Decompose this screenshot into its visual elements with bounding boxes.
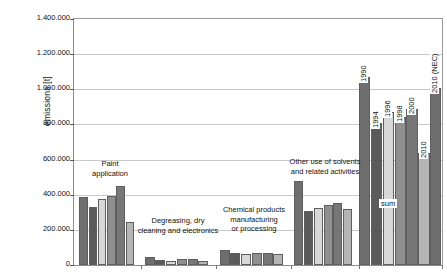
series-year-label: 1996 — [383, 99, 392, 118]
y-tick-label: 600.000 — [14, 154, 70, 163]
bar — [273, 254, 283, 265]
y-tick-mark — [70, 160, 74, 161]
emissions-bar-chart: emissions [t] 0200.000400.000600.000800.… — [0, 0, 447, 279]
bar — [166, 261, 176, 265]
y-tick-mark — [70, 89, 74, 90]
series-year-label: 1998 — [395, 105, 404, 124]
bar — [304, 211, 313, 265]
bar — [371, 123, 382, 265]
bar — [107, 196, 116, 265]
y-tick-mark — [70, 124, 74, 125]
bar — [383, 112, 394, 265]
category-label: Paint application — [79, 159, 141, 178]
bar — [294, 181, 303, 265]
category-label: Degreasing, dry cleaning and electronics — [132, 216, 224, 235]
x-tick-mark — [442, 265, 443, 269]
bar — [406, 109, 417, 265]
category-label: Other use of solvents and related activi… — [282, 157, 368, 176]
y-tick-mark — [70, 230, 74, 231]
sum-label: sum — [379, 199, 397, 208]
plot-area: Paint applicationDegreasing, dry cleanin… — [73, 18, 443, 266]
bar — [155, 260, 165, 265]
y-tick-mark — [70, 195, 74, 196]
y-tick-mark — [70, 265, 74, 266]
series-year-label: 2010 (NEC) — [430, 52, 439, 94]
series-year-label: 1990 — [359, 64, 368, 83]
bar — [79, 197, 88, 265]
series-year-label: 2000 — [407, 96, 416, 115]
y-tick-label: 1.400.000 — [14, 13, 70, 22]
bar — [395, 117, 406, 265]
category-label: Chemical products manufacturing or proce… — [214, 205, 294, 234]
y-tick-label: 200.000 — [14, 224, 70, 233]
gridline — [74, 54, 442, 55]
x-tick-mark — [359, 265, 360, 269]
bar — [198, 261, 208, 265]
y-tick-label: 400.000 — [14, 189, 70, 198]
bar — [314, 208, 323, 265]
bar — [343, 209, 352, 265]
bar — [230, 253, 240, 265]
bar — [188, 259, 198, 265]
bar — [333, 203, 342, 265]
y-tick-label: 1.000.000 — [14, 83, 70, 92]
y-tick-mark — [70, 54, 74, 55]
bar — [89, 207, 98, 265]
bar — [430, 88, 441, 265]
bar — [116, 186, 125, 265]
x-tick-mark — [216, 265, 217, 269]
bar — [177, 259, 187, 265]
x-tick-mark — [141, 265, 142, 269]
y-tick-label: 1.200.000 — [14, 48, 70, 57]
series-year-label: 1994 — [371, 110, 380, 129]
x-tick-mark — [291, 265, 292, 269]
bar — [241, 254, 251, 265]
bar — [263, 253, 273, 265]
bar — [418, 153, 429, 265]
y-tick-label: 800.000 — [14, 118, 70, 127]
bar — [220, 250, 230, 265]
bar — [252, 253, 262, 265]
gridline — [74, 89, 442, 90]
bar — [98, 199, 107, 265]
y-axis-tick-labels: 0200.000400.000600.000800.0001.000.0001.… — [8, 0, 70, 279]
bar — [324, 205, 333, 265]
bar — [145, 257, 155, 265]
y-tick-label: 0 — [14, 259, 70, 268]
series-year-label: 2010 — [419, 140, 428, 159]
y-tick-mark — [70, 19, 74, 20]
